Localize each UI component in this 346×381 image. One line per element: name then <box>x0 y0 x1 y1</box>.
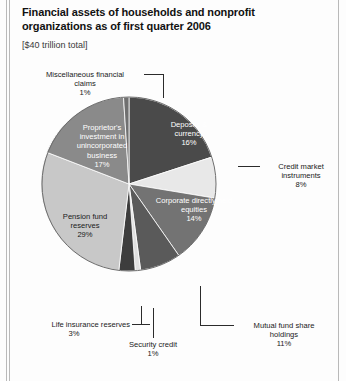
leader-line-life-insurance-vertical <box>141 306 142 325</box>
callout-credit-value: 8% <box>262 180 340 189</box>
chart-page: Financial assets of households and nonpr… <box>0 0 346 381</box>
callout-credit-line1: Credit market <box>262 162 340 171</box>
callout-misc-value: 1% <box>27 88 143 97</box>
callout-miscellaneous-financial-claims: Miscellaneous financial claims 1% <box>27 70 143 98</box>
callout-life-insurance-reserves: Life insurance reserves 3% <box>18 320 130 338</box>
pie-svg <box>41 96 217 272</box>
callout-credit-line2: instruments <box>262 171 340 180</box>
leader-line-credit-market-horizontal <box>238 166 260 167</box>
callout-credit-market-instruments: Credit market instruments 8% <box>262 162 340 190</box>
callout-mutual-line1: Mutual fund share <box>236 321 332 330</box>
callout-misc-line1: Miscellaneous financial <box>27 70 143 79</box>
leader-line-security-credit-vertical <box>153 308 154 338</box>
callout-life-value: 3% <box>18 329 130 338</box>
leader-line-miscellaneous-horizontal <box>144 74 164 75</box>
callout-security-line1: Security credit <box>105 340 201 349</box>
callout-misc-line2: claims <box>27 79 143 88</box>
callout-security-value: 1% <box>105 349 201 358</box>
callout-mutual-fund-share-holdings: Mutual fund share holdings 11% <box>236 321 332 349</box>
callout-mutual-line2: holdings <box>236 330 332 339</box>
pie-graphic <box>41 96 217 272</box>
chart-subtitle: [$40 trillion total] <box>22 40 88 50</box>
callout-mutual-value: 11% <box>236 339 332 348</box>
leader-line-mutual-fund-horizontal <box>200 325 234 326</box>
callout-security-credit: Security credit 1% <box>105 340 201 358</box>
pie-chart: Deposits & currency 16% Corporate direct… <box>0 58 346 381</box>
callout-life-line1: Life insurance reserves <box>18 320 130 329</box>
chart-title: Financial assets of households and nonpr… <box>22 6 327 33</box>
leader-line-mutual-fund-vertical <box>200 286 201 326</box>
leader-line-miscellaneous-vertical <box>163 74 164 98</box>
